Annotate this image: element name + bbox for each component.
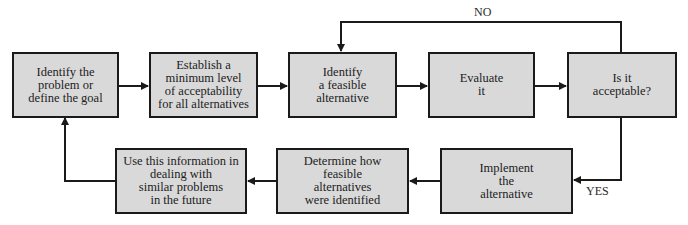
node-text: Use this information in dealing with sim… [123,155,239,207]
arrow-no-loop [341,22,621,52]
node-identify-alternative: Identify a feasible alternative [288,52,397,118]
yes-label: YES [586,184,609,199]
node-determine-how: Determine how feasible alternatives were… [276,148,409,214]
no-label: NO [474,5,491,20]
node-text: Identify a feasible alternative [316,66,369,105]
node-is-acceptable: Is it acceptable? [567,52,677,118]
node-evaluate: Evaluate it [428,52,535,118]
node-text: Evaluate it [460,72,504,98]
node-identify-problem: Identify the problem or define the goal [12,52,119,118]
node-text: Is it acceptable? [593,72,651,98]
node-implement: Implement the alternative [440,148,573,214]
node-establish-minimum: Establish a minimum level of acceptabili… [149,52,258,118]
node-text: Implement the alternative [479,162,533,201]
node-text: Identify the problem or define the goal [28,66,102,105]
arrow-yes [574,117,621,180]
arrow-return [65,118,115,181]
node-text: Establish a minimum level of acceptabili… [158,59,249,111]
node-text: Determine how feasible alternatives were… [304,155,381,207]
node-use-information: Use this information in dealing with sim… [115,148,247,214]
